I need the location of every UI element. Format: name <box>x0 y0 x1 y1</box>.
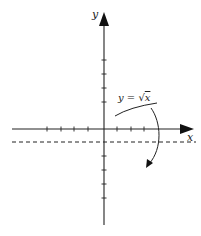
curve-label-prefix: y = <box>117 92 138 103</box>
curve-label: y = √x <box>117 92 151 103</box>
diagram-canvas: y x y = √x <box>0 0 201 236</box>
y-axis-label: y <box>91 8 99 21</box>
y-axis-arrow-icon <box>99 12 109 26</box>
rotation-arc <box>149 108 159 164</box>
sqrt-curve <box>115 103 157 116</box>
curve-label-var: x <box>145 92 151 103</box>
